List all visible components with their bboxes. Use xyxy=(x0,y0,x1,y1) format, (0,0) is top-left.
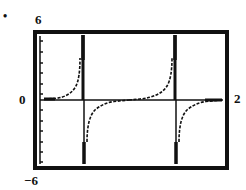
graph-plot xyxy=(0,0,246,190)
